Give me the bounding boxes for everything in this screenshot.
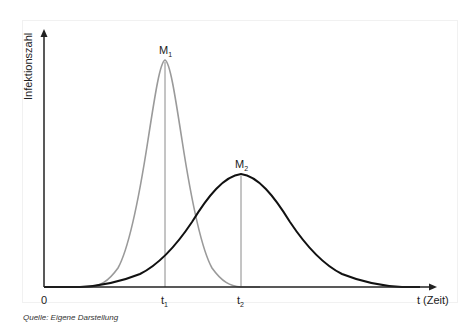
- t2-sub: 2: [240, 301, 244, 308]
- x-axis-label: t (Zeit): [417, 294, 449, 306]
- curve-1-gray: [44, 60, 260, 287]
- m1-sub: 1: [168, 51, 172, 58]
- y-axis-label: Infektionszahl: [22, 33, 34, 100]
- tick-label-t1: t1: [161, 294, 168, 308]
- m1-base: M: [159, 44, 168, 56]
- curve-2-black: [44, 174, 420, 287]
- t1-sub: 1: [164, 301, 168, 308]
- m2-base: M: [235, 158, 244, 170]
- source-caption: Quelle: Eigene Darstellung: [23, 313, 118, 322]
- y-axis-arrow-icon: [41, 29, 48, 37]
- peak-label-m1: M1: [159, 44, 172, 58]
- tick-label-t2: t2: [237, 294, 244, 308]
- x-axis-arrow-icon: [429, 284, 437, 291]
- m2-sub: 2: [244, 165, 248, 172]
- origin-label: 0: [41, 294, 47, 306]
- peak-label-m2: M2: [235, 158, 248, 172]
